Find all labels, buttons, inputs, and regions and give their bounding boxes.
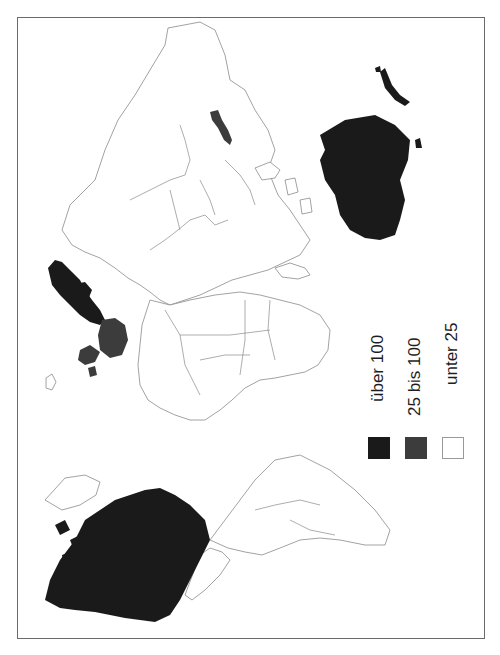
uk-mid — [78, 345, 100, 365]
eurasia-landmass — [62, 22, 310, 305]
legend-label-high: über 100 — [368, 335, 388, 402]
ireland-mid — [88, 366, 97, 377]
new-zealand-high — [380, 68, 410, 106]
legend-swatch-high — [368, 437, 390, 459]
madagascar — [275, 263, 310, 279]
legend-swatch-low — [442, 437, 464, 459]
world-map — [0, 0, 500, 655]
legend-label-mid: 25 bis 100 — [405, 338, 425, 416]
australia-high — [320, 115, 410, 240]
south-america-landmass — [210, 455, 390, 555]
legend-swatch-mid — [405, 437, 427, 459]
greenland — [45, 475, 100, 510]
legend-label-low: unter 25 — [442, 323, 462, 385]
iceland — [46, 374, 56, 390]
africa-landmass — [138, 292, 330, 420]
france-mid — [98, 318, 128, 358]
